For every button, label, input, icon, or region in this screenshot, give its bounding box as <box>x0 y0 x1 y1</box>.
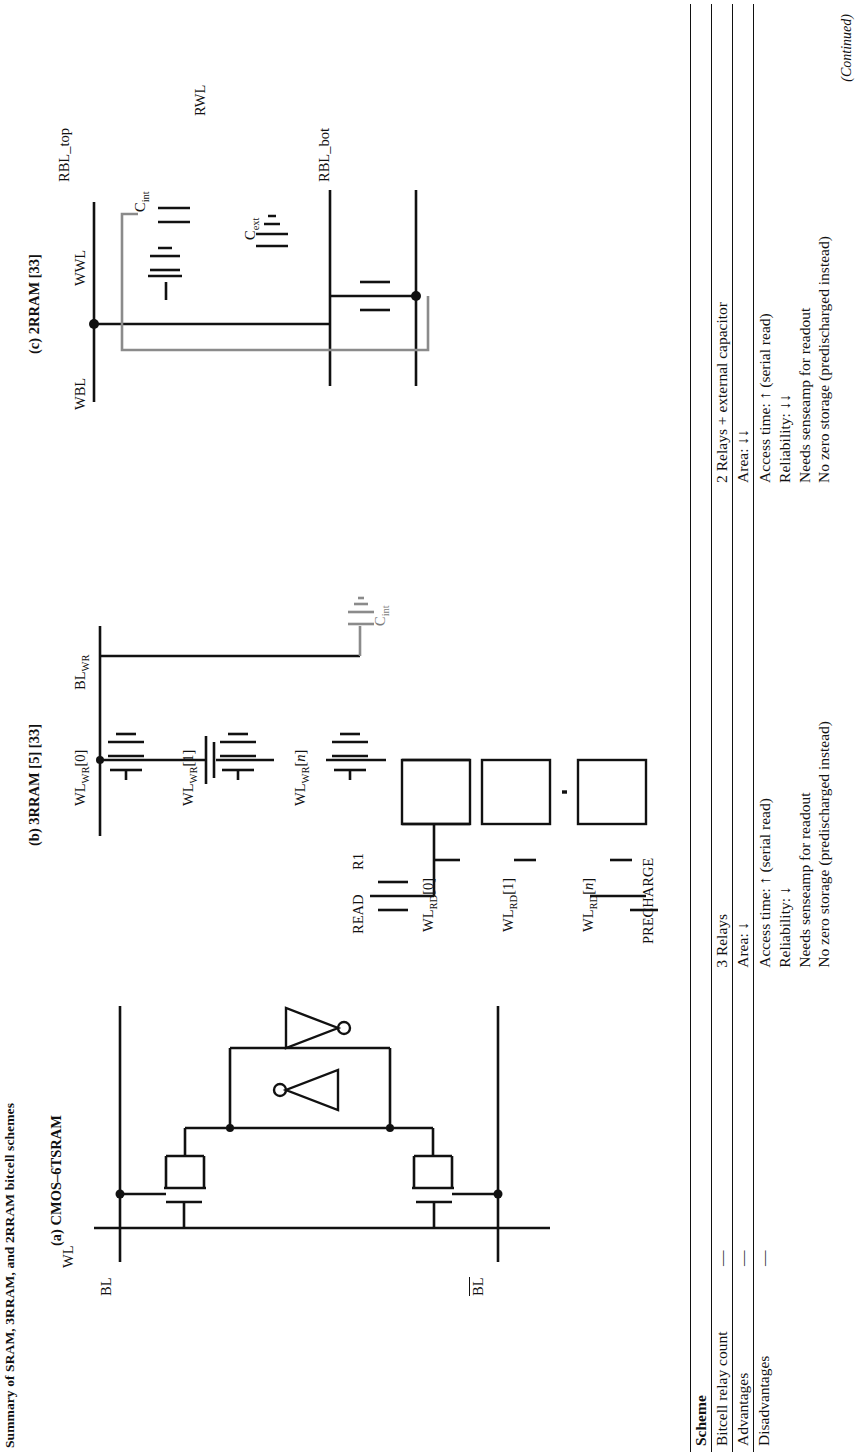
cell-a-advantages: — <box>733 974 754 1272</box>
cell-c-advantages: Area: ↓↓ <box>733 4 754 489</box>
table-row: Scheme <box>691 4 712 1452</box>
table-row: Disadvantages — Access time: ↑ (serial r… <box>754 4 836 1452</box>
node-label-wl: WL <box>60 1245 77 1268</box>
cell-line: Needs senseamp for readout <box>795 495 815 968</box>
table-footer-note: (Continued) <box>835 4 855 1452</box>
panel-3rram: (b) 3RRAM [5] [33] BLWR WLWR[0] WLWR[1] … <box>20 486 670 956</box>
row-label-disadvantages: Disadvantages <box>754 1272 836 1452</box>
cell-b-relay-count: 3 Relays <box>712 489 733 974</box>
row-label-scheme: Scheme <box>691 1272 712 1452</box>
cell-line: No zero storage (predischarged instead) <box>814 10 834 483</box>
table-row: Bitcell relay count — 3 Relays 2 Relays … <box>712 4 733 1452</box>
figure-caption-top: Summary of SRAM, 3RRAM, and 2RRAM bitcel… <box>2 1103 18 1448</box>
table-row: Advantages — Area: ↓ Area: ↓↓ <box>733 4 754 1452</box>
cell-a-relay-count: — <box>712 974 733 1272</box>
cell-a-disadvantages: — <box>754 974 836 1272</box>
cell-b-disadvantages: Access time: ↑ (serial read) Reliability… <box>754 489 836 974</box>
cell-b-advantages: Area: ↓ <box>733 489 754 974</box>
cell-c-relay-count: 2 Relays + external capacitor <box>712 4 733 489</box>
panel-a-header: (a) CMOS–6TSRAM <box>48 1115 65 1246</box>
cell-line: Reliability: ↓ <box>775 495 795 968</box>
cell-line: Needs senseamp for readout <box>795 10 815 483</box>
panel-2rram: (c) 2RRAM [33] WBL WWL RBL_top RBL_bot R… <box>20 66 660 446</box>
cell-line: Reliability: ↓↓ <box>775 10 795 483</box>
row-label-bitcell-relay-count: Bitcell relay count <box>712 1272 733 1452</box>
row-label-advantages: Advantages <box>733 1272 754 1452</box>
cell-c-disadvantages: Access time: ↑ (serial read) Reliability… <box>754 4 836 489</box>
cell-line: Access time: ↑ (serial read) <box>755 495 775 968</box>
comparison-table: Scheme Bitcell relay count — 3 Relays 2 … <box>690 4 855 1452</box>
panel-cmos-6t-sram: (a) CMOS–6TSRAM BL BL WL <box>40 976 660 1306</box>
cell-line: Access time: ↑ (serial read) <box>755 10 775 483</box>
cell-line: No zero storage (predischarged instead) <box>814 495 834 968</box>
